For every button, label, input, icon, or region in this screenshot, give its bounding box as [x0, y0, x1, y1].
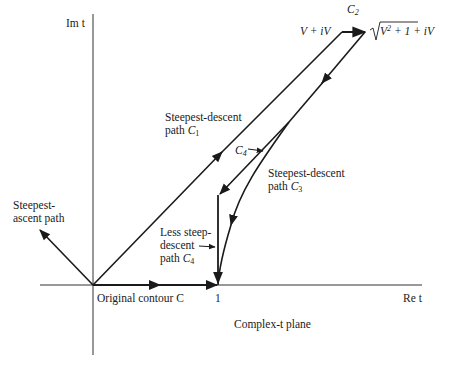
- contour-diagram: [0, 0, 454, 369]
- less-steep-line1: Less steep-: [160, 226, 211, 239]
- imaginary-axis-label: Im t: [66, 17, 85, 30]
- c2-symbol: C: [347, 3, 355, 15]
- c1-line2: path C1: [165, 124, 242, 137]
- c3-sub: 3: [298, 185, 302, 194]
- caption: Complex-t plane: [234, 318, 311, 331]
- path-c3-curve-lower: [218, 225, 231, 285]
- tick-one-label: 1: [215, 292, 221, 305]
- c4-pointer: [248, 149, 263, 151]
- c1-sub: 1: [195, 129, 199, 138]
- corner-left-label: V + iV: [300, 25, 331, 38]
- path-c3-upper: [289, 81, 324, 122]
- path-c1-arrow: [93, 152, 222, 285]
- steepest-ascent-line1: Steepest-: [13, 199, 64, 212]
- c3-label: Steepest-descent path C3: [268, 167, 345, 193]
- steepest-ascent-label: Steepest- ascent path: [13, 199, 64, 225]
- c2-label: C2: [347, 3, 359, 16]
- imag-label-text: Im t: [66, 17, 85, 29]
- path-c3-upper-arrow: [322, 32, 365, 83]
- c2-sub: 2: [355, 8, 359, 17]
- less-steep-label: Less steep- descent path C4: [160, 226, 211, 265]
- less-steep-sub: 4: [190, 257, 194, 266]
- c3-line2: path C3: [268, 180, 345, 193]
- less-steep-prefix: path: [160, 252, 183, 264]
- less-steep-line2: descent: [160, 239, 211, 252]
- c3-prefix: path: [268, 180, 291, 192]
- real-axis-label: Re t: [403, 292, 422, 305]
- less-steep-line3: path C4: [160, 252, 211, 265]
- c3-line1: Steepest-descent: [268, 167, 345, 180]
- corner-right-rest: + 1 + iV: [391, 25, 434, 37]
- steepest-ascent-path: [40, 230, 93, 285]
- c1-label: Steepest-descent path C1: [165, 111, 242, 137]
- c4-sub: 4: [243, 149, 247, 158]
- steepest-ascent-line2: ascent path: [13, 212, 64, 225]
- c4-label: C4: [235, 144, 247, 157]
- corner-right-label: V2 + 1 + iV: [380, 25, 434, 38]
- original-contour-label: Original contour C: [97, 292, 184, 305]
- corner-right-v: V: [380, 25, 387, 37]
- c4-symbol: C: [235, 144, 243, 156]
- c1-prefix: path: [165, 124, 188, 136]
- c1-line1: Steepest-descent: [165, 111, 242, 124]
